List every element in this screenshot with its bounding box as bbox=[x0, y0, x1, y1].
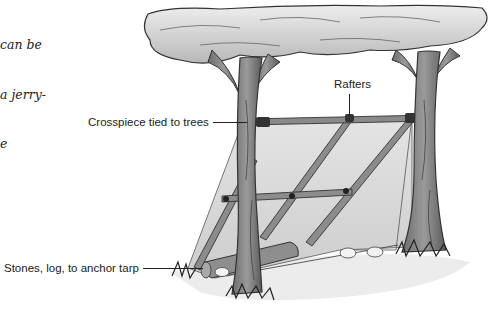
label-anchor: Stones, log, to anchor tarp bbox=[4, 262, 139, 275]
leader-line-rafters bbox=[349, 94, 350, 116]
leader-line-crosspiece bbox=[213, 122, 247, 123]
leader-line-anchor bbox=[143, 268, 203, 269]
label-rafters: Rafters bbox=[334, 78, 371, 91]
label-crosspiece: Crosspiece tied to trees bbox=[88, 116, 209, 129]
